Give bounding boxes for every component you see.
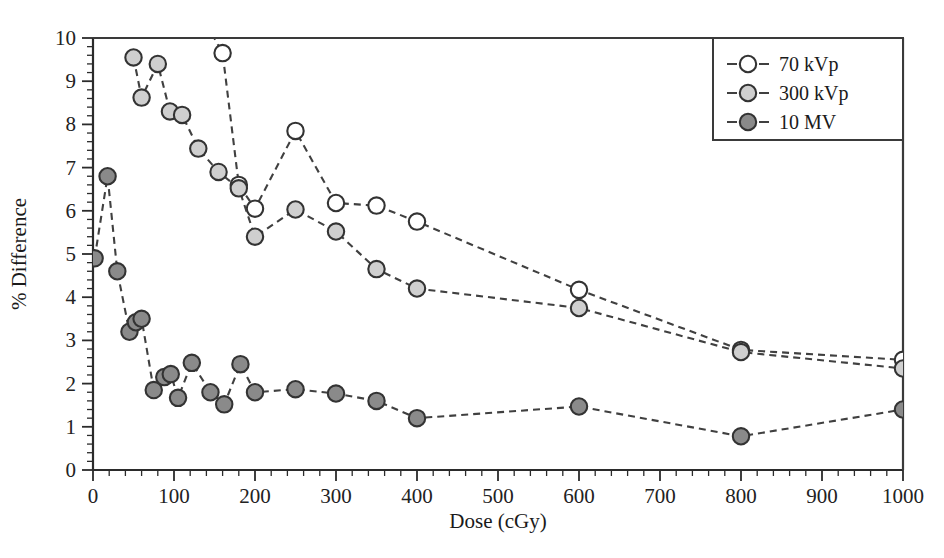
x-axis-title: Dose (cGy) (449, 509, 546, 533)
data-point (231, 180, 247, 196)
data-point (368, 197, 384, 213)
y-axis-ticks (82, 38, 93, 470)
x-tick-label: 900 (806, 484, 838, 508)
y-tick-label: 1 (66, 415, 77, 439)
data-point (99, 168, 115, 184)
x-axis-ticks (93, 470, 903, 481)
data-point (571, 398, 587, 414)
y-tick-label: 3 (66, 328, 77, 352)
chart-container: 01002003004005006007008009001000 0123456… (0, 0, 944, 558)
data-point (368, 261, 384, 277)
chart-legend: 70 kVp300 kVp10 MV (713, 38, 903, 140)
data-point (368, 393, 384, 409)
x-tick-label: 800 (725, 484, 757, 508)
y-tick-label: 0 (66, 458, 77, 482)
y-axis-tick-labels: 012345678910 (55, 26, 77, 482)
x-tick-label: 100 (158, 484, 190, 508)
legend-label: 10 MV (779, 111, 837, 133)
x-tick-label: 500 (482, 484, 514, 508)
data-point (571, 300, 587, 316)
x-tick-label: 400 (401, 484, 433, 508)
x-tick-label: 700 (644, 484, 676, 508)
data-point (733, 344, 749, 360)
data-point (287, 381, 303, 397)
data-point (895, 401, 911, 417)
y-tick-label: 8 (66, 112, 77, 136)
data-point (409, 280, 425, 296)
y-tick-label: 4 (66, 285, 77, 309)
legend-entry-300-kvp[interactable]: 300 kVp (727, 82, 848, 105)
data-point (247, 384, 263, 400)
y-tick-label: 7 (66, 156, 77, 180)
data-point (287, 201, 303, 217)
data-point (409, 213, 425, 229)
data-point (328, 195, 344, 211)
data-point (170, 390, 186, 406)
data-point (109, 263, 125, 279)
y-axis-title: % Difference (7, 198, 31, 310)
data-point (133, 311, 149, 327)
data-point (150, 56, 166, 72)
data-point (895, 360, 911, 376)
data-point (190, 140, 206, 156)
data-point (86, 250, 102, 266)
data-point (733, 428, 749, 444)
data-point (202, 384, 218, 400)
data-point (409, 410, 425, 426)
y-tick-label: 10 (55, 26, 76, 50)
data-point (328, 223, 344, 239)
legend-marker-icon (740, 114, 756, 130)
legend-marker-icon (740, 85, 756, 101)
x-tick-label: 200 (239, 484, 271, 508)
y-tick-label: 6 (66, 199, 77, 223)
x-tick-label: 300 (320, 484, 352, 508)
data-point (571, 282, 587, 298)
y-tick-label: 9 (66, 69, 77, 93)
data-point (214, 45, 230, 61)
legend-label: 70 kVp (779, 53, 838, 76)
data-point (232, 356, 248, 372)
x-tick-label: 0 (88, 484, 99, 508)
data-point (133, 89, 149, 105)
data-point (210, 164, 226, 180)
x-axis-tick-labels: 01002003004005006007008009001000 (88, 484, 924, 508)
data-point (163, 366, 179, 382)
data-point (174, 107, 190, 123)
series-10-mv (86, 168, 911, 444)
legend-label: 300 kVp (779, 82, 848, 105)
legend-marker-icon (740, 56, 756, 72)
legend-entry-10-mv[interactable]: 10 MV (727, 111, 837, 133)
data-point (287, 123, 303, 139)
x-tick-label: 1000 (882, 484, 924, 508)
data-point (328, 385, 344, 401)
y-tick-label: 2 (66, 372, 77, 396)
data-point (247, 229, 263, 245)
data-point (184, 355, 200, 371)
x-tick-label: 600 (563, 484, 595, 508)
y-tick-label: 5 (66, 242, 77, 266)
difference-vs-dose-chart: 01002003004005006007008009001000 0123456… (0, 0, 944, 558)
data-point (216, 396, 232, 412)
data-point (247, 200, 263, 216)
data-point (125, 49, 141, 65)
